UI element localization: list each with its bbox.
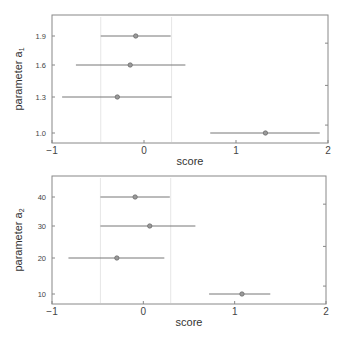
x-tick-label: 0 <box>141 145 147 156</box>
y-tick-label: 30 <box>38 222 46 231</box>
x-tick-label: 2 <box>325 145 331 156</box>
x-axis-title: score <box>177 155 204 167</box>
y-tick-label: 10 <box>38 290 46 299</box>
point-marker <box>115 95 119 99</box>
x-tick-label: 1 <box>233 145 239 156</box>
x-tick-label: 2 <box>323 306 329 317</box>
y-tick-label: 20 <box>38 254 46 263</box>
y-tick-label: 1.3 <box>36 93 46 102</box>
x-tick-label: −1 <box>46 145 58 156</box>
plot-frame <box>52 176 326 304</box>
point-marker <box>148 224 152 228</box>
y-tick-label: 1.9 <box>36 32 46 41</box>
y-axis-title: parameter a1 <box>12 47 25 110</box>
point-marker <box>134 34 138 38</box>
chart-figure: −10121.01.31.61.9scoreparameter a1−10121… <box>0 0 347 344</box>
y-tick-label: 1.0 <box>36 129 46 138</box>
point-marker <box>240 292 244 296</box>
plot-frame <box>52 15 328 143</box>
x-axis-title: score <box>176 316 203 328</box>
y-tick-label: 1.6 <box>36 61 46 70</box>
point-marker <box>263 131 267 135</box>
point-marker <box>115 256 119 260</box>
y-axis-title: parameter a2 <box>12 208 25 271</box>
point-marker <box>128 63 132 67</box>
x-tick-label: −1 <box>46 306 58 317</box>
point-marker <box>133 195 137 199</box>
x-tick-label: 0 <box>141 306 147 317</box>
x-tick-label: 1 <box>232 306 238 317</box>
y-tick-label: 40 <box>38 193 46 202</box>
